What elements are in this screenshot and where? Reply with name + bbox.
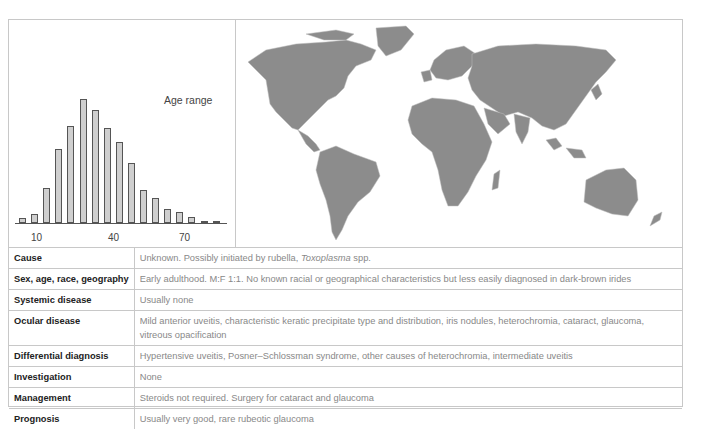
row-value-text: Unknown. Possibly initiated by rubella, [140, 253, 301, 263]
histogram-bar [164, 209, 171, 223]
histogram-bar [43, 188, 50, 223]
histogram-bar [116, 142, 123, 223]
histogram-bar [55, 149, 62, 223]
x-tick-10: 10 [31, 232, 42, 243]
table-row: Sex, age, race, geography Early adulthoo… [9, 269, 682, 290]
x-axis-line [15, 223, 227, 224]
table-row: Differential diagnosis Hypertensive uvei… [9, 346, 682, 367]
histogram-bar [67, 126, 74, 223]
x-tick-40: 40 [108, 232, 119, 243]
histogram-bar [140, 190, 147, 223]
row-key: Management [9, 388, 134, 409]
info-table: Cause Unknown. Possibly initiated by rub… [9, 247, 682, 429]
histogram-bar [104, 128, 111, 223]
histogram-bar [128, 163, 135, 223]
histogram-bar [92, 110, 99, 223]
row-key: Ocular disease [9, 311, 134, 346]
row-value-italic: Toxoplasma [301, 253, 351, 263]
row-value-suffix: spp. [351, 253, 371, 263]
row-key: Investigation [9, 367, 134, 388]
row-key: Systemic disease [9, 290, 134, 311]
table-row: Systemic disease Usually none [9, 290, 682, 311]
row-value: Mild anterior uveitis, characteristic ke… [134, 311, 682, 346]
row-value: Usually none [134, 290, 682, 311]
world-map [236, 20, 682, 247]
row-value: Early adulthood. M:F 1:1. No known racia… [134, 269, 682, 290]
row-value: Hypertensive uveitis, Posner–Schlossman … [134, 346, 682, 367]
row-key: Cause [9, 248, 134, 269]
histogram-bar [176, 212, 183, 223]
table-row: Investigation None [9, 367, 682, 388]
row-value: Steroids not required. Surgery for catar… [134, 388, 682, 409]
table-row: Prognosis Usually very good, rare rubeot… [9, 409, 682, 429]
world-map-icon [236, 20, 682, 247]
histogram-bar [80, 99, 87, 223]
table-row: Management Steroids not required. Surger… [9, 388, 682, 409]
row-key: Prognosis [9, 409, 134, 429]
table-row: Cause Unknown. Possibly initiated by rub… [9, 248, 682, 269]
age-histogram: Age range 10 40 70 [9, 20, 236, 247]
histogram-bars [17, 80, 227, 223]
row-value: None [134, 367, 682, 388]
x-tick-70: 70 [179, 232, 190, 243]
figure-frame: Age range 10 40 70 [8, 19, 683, 407]
row-value: Usually very good, rare rubeotic glaucom… [134, 409, 682, 429]
row-value: Unknown. Possibly initiated by rubella, … [134, 248, 682, 269]
row-key: Differential diagnosis [9, 346, 134, 367]
histogram-bar [31, 214, 38, 223]
histogram-bar [152, 198, 159, 223]
table-row: Ocular disease Mild anterior uveitis, ch… [9, 311, 682, 346]
row-key: Sex, age, race, geography [9, 269, 134, 290]
